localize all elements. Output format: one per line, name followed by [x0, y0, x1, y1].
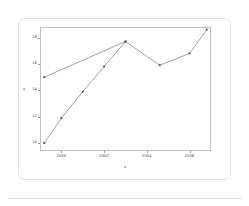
- data-point-marker: [43, 76, 45, 78]
- series-line: [44, 42, 125, 144]
- data-point-marker: [103, 66, 105, 68]
- data-point-marker: [206, 29, 208, 31]
- x-tick-label: 2002: [99, 155, 109, 159]
- x-tick-mark: [190, 151, 191, 153]
- x-tick-mark: [61, 151, 62, 153]
- y-tick-label: 18: [28, 36, 37, 40]
- x-tick-label: 2004: [142, 155, 152, 159]
- x-tick-label: 2000: [57, 155, 67, 159]
- chart-figure: 2000200220042006 1012141618 x y: [19, 19, 232, 181]
- y-tick-mark: [38, 38, 40, 39]
- x-tick-label: 2006: [185, 155, 195, 159]
- y-tick-label: 14: [28, 89, 37, 93]
- x-axis-title: x: [124, 165, 126, 169]
- data-point-marker: [189, 52, 191, 54]
- data-point-marker: [125, 41, 127, 43]
- bottom-divider: [8, 198, 241, 199]
- chart-canvas: [40, 27, 211, 151]
- chart-card: 2000200220042006 1012141618 x y: [18, 18, 231, 180]
- x-tick-mark: [147, 151, 148, 153]
- y-tick-label: 16: [28, 62, 37, 66]
- x-tick-mark: [104, 151, 105, 153]
- data-point-marker: [159, 64, 161, 66]
- series-line: [44, 30, 206, 77]
- y-tick-label: 10: [28, 141, 37, 145]
- y-tick-mark: [38, 117, 40, 118]
- data-point-marker: [82, 91, 84, 93]
- data-point-marker: [43, 142, 45, 144]
- y-tick-mark: [38, 143, 40, 144]
- series-layer: [43, 29, 207, 144]
- y-tick-label: 12: [28, 115, 37, 119]
- data-point-marker: [60, 117, 62, 119]
- screenshot-root: 2000200220042006 1012141618 x y: [0, 0, 249, 206]
- y-tick-mark: [38, 64, 40, 65]
- y-axis-title: y: [23, 87, 25, 91]
- y-tick-mark: [38, 90, 40, 91]
